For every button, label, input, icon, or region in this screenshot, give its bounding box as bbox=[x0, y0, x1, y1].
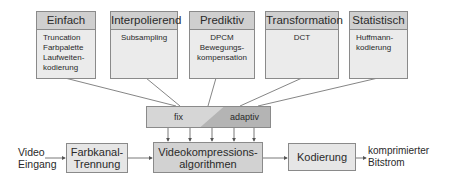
category-item: Truncation bbox=[43, 33, 93, 43]
category-items: Huffmann- kodierung bbox=[350, 30, 407, 53]
compression-algorithms-box: Videokompressions- algorithmen bbox=[153, 142, 263, 173]
mode-fixed-label: fix bbox=[174, 112, 183, 122]
category-title: Statistisch bbox=[350, 12, 407, 30]
category-title: Prediktiv bbox=[190, 12, 254, 30]
input-label: Video Eingang bbox=[18, 146, 57, 170]
category-interpolierend: Interpolierend Subsampling bbox=[110, 11, 178, 79]
input-label-line: Video bbox=[18, 146, 57, 158]
category-title: Interpolierend bbox=[111, 12, 177, 30]
category-items: DCT bbox=[266, 30, 338, 43]
coding-box: Kodierung bbox=[288, 143, 356, 171]
mode-bar: fix adaptiv bbox=[146, 106, 271, 128]
category-item: kodierung bbox=[356, 43, 405, 53]
process-label: Farbkanal- bbox=[67, 146, 127, 158]
category-item: Subsampling bbox=[113, 33, 175, 43]
category-transformation: Transformation DCT bbox=[265, 11, 339, 79]
input-label-line: Eingang bbox=[18, 158, 57, 170]
output-label-line: komprimierter bbox=[368, 145, 429, 157]
category-items: Truncation Farbpalette Laufweiten- kodie… bbox=[37, 30, 95, 73]
category-item: Huffmann- bbox=[356, 33, 405, 43]
category-title: Einfach bbox=[37, 12, 95, 30]
category-items: DPCM Bewegungs- kompensation bbox=[190, 30, 254, 63]
output-label: komprimierter Bitstrom bbox=[368, 145, 429, 169]
mode-adaptive-label: adaptiv bbox=[230, 112, 259, 122]
category-items: Subsampling bbox=[111, 30, 177, 43]
category-item: DCT bbox=[268, 33, 336, 43]
process-label: Kodierung bbox=[289, 151, 355, 163]
category-title: Transformation bbox=[266, 12, 338, 30]
category-item: Farbpalette bbox=[43, 43, 93, 53]
category-item: Bewegungs- bbox=[192, 43, 252, 53]
category-item: Laufweiten- bbox=[43, 53, 93, 63]
output-label-line: Bitstrom bbox=[368, 157, 429, 169]
process-label: Trennung bbox=[67, 158, 127, 170]
color-separation-box: Farbkanal- Trennung bbox=[66, 143, 128, 173]
category-item: kodierung bbox=[43, 63, 93, 73]
category-statistisch: Statistisch Huffmann- kodierung bbox=[349, 11, 408, 79]
category-item: DPCM bbox=[192, 33, 252, 43]
category-prediktiv: Prediktiv DPCM Bewegungs- kompensation bbox=[189, 11, 255, 79]
process-label: algorithmen bbox=[154, 158, 262, 170]
process-label: Videokompressions- bbox=[154, 146, 262, 158]
category-einfach: Einfach Truncation Farbpalette Laufweite… bbox=[36, 11, 96, 79]
category-item: kompensation bbox=[192, 53, 252, 63]
